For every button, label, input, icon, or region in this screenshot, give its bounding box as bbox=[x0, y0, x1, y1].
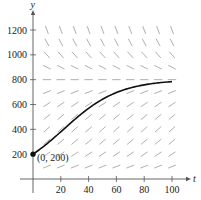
slope-segment bbox=[57, 91, 65, 94]
slope-segment bbox=[43, 65, 51, 69]
y-tick-label: 200 bbox=[12, 149, 27, 160]
slope-segment bbox=[57, 165, 65, 168]
slope-segment bbox=[127, 102, 134, 107]
slope-segment bbox=[127, 127, 133, 133]
slope-segment bbox=[43, 165, 51, 168]
slope-segment bbox=[87, 26, 90, 34]
y-axis-label: y bbox=[30, 0, 36, 10]
slope-segment bbox=[113, 127, 119, 133]
slope-segment bbox=[155, 102, 162, 107]
slope-segment bbox=[155, 139, 161, 144]
slope-segment bbox=[99, 102, 106, 107]
slope-segment bbox=[113, 139, 119, 144]
slope-segment bbox=[141, 102, 148, 107]
slope-segment bbox=[157, 26, 160, 34]
slope-segment bbox=[73, 26, 76, 34]
slope-segment bbox=[57, 102, 64, 107]
y-tick-label: 1200 bbox=[7, 25, 27, 36]
slope-segment bbox=[43, 91, 51, 94]
slope-segment bbox=[58, 52, 64, 58]
x-tick-label: 100 bbox=[165, 184, 180, 195]
slope-segment bbox=[71, 91, 79, 94]
slope-segment bbox=[168, 65, 176, 69]
slope-segment bbox=[168, 165, 176, 168]
slope-segment bbox=[126, 91, 134, 94]
slope-segment bbox=[140, 65, 148, 69]
slope-segment bbox=[43, 102, 50, 107]
slope-segment bbox=[85, 91, 93, 94]
slope-segment bbox=[141, 127, 147, 133]
slope-segment bbox=[59, 39, 63, 46]
slope-segment bbox=[142, 39, 146, 46]
slope-segment bbox=[99, 152, 106, 157]
slope-segment bbox=[169, 127, 175, 133]
slope-segment bbox=[127, 139, 133, 144]
slope-segment bbox=[169, 52, 175, 58]
slope-field bbox=[43, 26, 177, 168]
x-tick-label: 40 bbox=[84, 184, 94, 195]
slope-segment bbox=[140, 165, 148, 168]
slope-segment bbox=[169, 102, 176, 107]
slope-segment bbox=[44, 127, 50, 133]
y-tick-label: 400 bbox=[12, 124, 27, 135]
slope-segment bbox=[71, 65, 79, 69]
slope-segment bbox=[85, 152, 92, 157]
slope-segment bbox=[44, 52, 50, 58]
initial-point-marker bbox=[30, 152, 35, 157]
initial-point-label: (0, 200) bbox=[37, 152, 69, 164]
slope-segment bbox=[101, 26, 104, 34]
slope-segment bbox=[141, 114, 147, 119]
y-tick-label: 800 bbox=[12, 74, 27, 85]
slope-segment bbox=[99, 165, 107, 168]
slope-segment bbox=[156, 39, 160, 46]
slope-segment bbox=[155, 152, 162, 157]
slope-segment bbox=[115, 26, 118, 34]
slope-segment bbox=[129, 26, 132, 34]
slope-segment bbox=[141, 139, 147, 144]
slope-segment bbox=[100, 52, 106, 58]
slope-segment bbox=[113, 102, 120, 107]
slope-segment bbox=[113, 65, 121, 69]
slope-segment bbox=[71, 139, 77, 144]
chart-canvas: 2040608010020040060080010001200 (0, 200)… bbox=[0, 0, 201, 200]
slope-segment bbox=[72, 52, 78, 58]
y-axis-arrow-icon bbox=[31, 10, 35, 15]
slope-segment bbox=[58, 139, 64, 144]
slope-segment bbox=[85, 139, 91, 144]
x-tick-label: 60 bbox=[111, 184, 121, 195]
slope-segment bbox=[169, 114, 175, 119]
slope-segment bbox=[58, 114, 64, 119]
slope-segment bbox=[169, 139, 175, 144]
slope-segment bbox=[45, 26, 48, 34]
slope-segment bbox=[59, 26, 62, 34]
slope-segment bbox=[71, 165, 79, 168]
slope-segment bbox=[113, 114, 119, 119]
slope-segment bbox=[155, 52, 161, 58]
slope-segment bbox=[86, 52, 92, 58]
slope-segment bbox=[99, 114, 105, 119]
slope-segment bbox=[170, 39, 174, 46]
slope-segment bbox=[143, 26, 146, 34]
x-axis-label: t bbox=[193, 173, 196, 184]
slope-segment bbox=[127, 65, 135, 69]
slope-segment bbox=[85, 65, 93, 69]
slope-segment bbox=[99, 127, 105, 133]
slope-segment bbox=[127, 114, 133, 119]
slope-segment bbox=[57, 65, 65, 69]
slope-field-chart: 2040608010020040060080010001200 (0, 200)… bbox=[0, 0, 201, 200]
slope-segment bbox=[169, 152, 176, 157]
slope-segment bbox=[154, 165, 162, 168]
x-axis-arrow-icon bbox=[186, 177, 191, 181]
slope-segment bbox=[71, 102, 78, 107]
slope-segment bbox=[71, 152, 78, 157]
y-tick-label: 1000 bbox=[7, 49, 27, 60]
slope-segment bbox=[87, 39, 91, 46]
slope-segment bbox=[85, 127, 91, 133]
slope-segment bbox=[171, 26, 174, 34]
slope-segment bbox=[154, 91, 162, 94]
slope-segment bbox=[72, 127, 78, 133]
slope-segment bbox=[99, 65, 107, 69]
slope-segment bbox=[155, 127, 161, 133]
y-tick-label: 600 bbox=[12, 99, 27, 110]
slope-segment bbox=[85, 165, 93, 168]
